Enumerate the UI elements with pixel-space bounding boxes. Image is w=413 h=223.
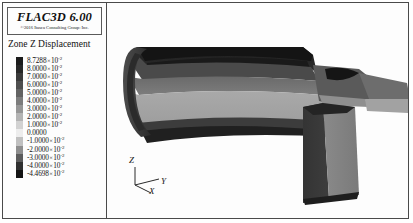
plot-window: FLAC3D 6.00 ©2016 Itasca Consulting Grou… [2, 2, 409, 219]
model-viewport[interactable]: Z Y X [107, 3, 408, 218]
legend-swatch [16, 113, 23, 121]
legend-swatch [16, 105, 23, 113]
legend-swatch [16, 81, 23, 89]
copyright-notice: ©2016 Itasca Consulting Group: Inc. [8, 25, 101, 30]
legend-swatch [16, 121, 23, 129]
legend-swatch [16, 137, 23, 145]
legend-swatch [16, 162, 23, 170]
legend-swatch [16, 129, 23, 137]
axis-triad: Z Y X [121, 155, 181, 203]
legend-swatch [16, 170, 23, 178]
legend-swatch [16, 57, 23, 65]
axis-label-x: X [149, 186, 155, 196]
axis-label-y: Y [161, 176, 166, 186]
legend-sidebar: FLAC3D 6.00 ©2016 Itasca Consulting Grou… [3, 3, 107, 218]
legend-value: -4.4698×10-2 [27, 170, 64, 178]
title-block: FLAC3D 6.00 ©2016 Itasca Consulting Grou… [7, 7, 102, 35]
legend-title: Zone Z Displacement [8, 39, 90, 49]
legend-swatch [16, 89, 23, 97]
app-title: FLAC3D 6.00 [8, 10, 101, 25]
legend-scale: 8.7288×10-28.0000×10-27.0000×10-26.0000×… [16, 57, 64, 178]
legend-swatch [16, 73, 23, 81]
legend-row: -4.4698×10-2 [16, 170, 64, 178]
axis-label-z: Z [129, 155, 134, 165]
legend-swatch [16, 154, 23, 162]
legend-swatch [16, 65, 23, 73]
legend-swatch [16, 97, 23, 105]
legend-swatch [16, 146, 23, 154]
